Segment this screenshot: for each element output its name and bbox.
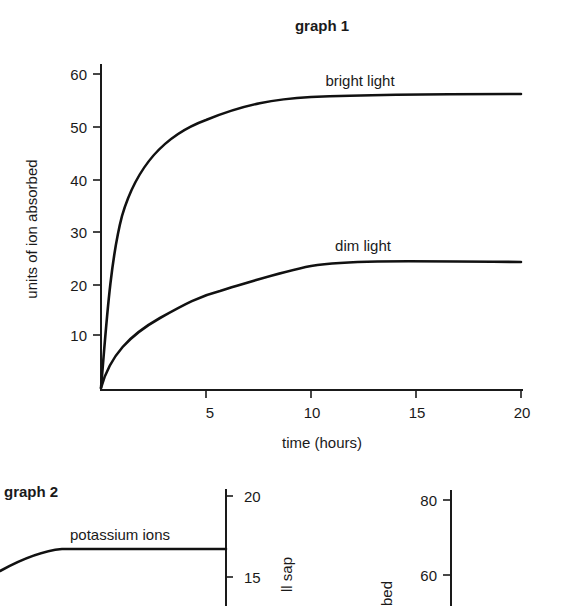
graph-2-title: graph 2 xyxy=(4,483,58,500)
graph-1-y-axis-label: units of ion absorbed xyxy=(23,159,40,298)
dim-light-label: dim light xyxy=(335,237,392,254)
graph-1-x-axis-label: time (hours) xyxy=(282,434,362,451)
graph-1-y-ticks: 60 50 40 30 20 10 xyxy=(70,66,101,344)
graph-2-left-axis-label: ll sap xyxy=(278,557,295,592)
figure-canvas: graph 1 60 50 40 30 20 10 5 10 xyxy=(0,0,577,606)
y-tick-30: 30 xyxy=(70,224,87,241)
potassium-ions-curve xyxy=(0,549,226,571)
y-tick-20: 20 xyxy=(70,277,87,294)
y-tick-50: 50 xyxy=(70,119,87,136)
graph-1-title: graph 1 xyxy=(295,17,349,34)
graph-2-left-tick-20: 20 xyxy=(244,488,261,505)
bright-light-label: bright light xyxy=(325,72,395,89)
graph-2: graph 2 20 15 ll sap 80 60 bed potassium… xyxy=(0,483,451,606)
graph-2-right-tick-60: 60 xyxy=(420,567,437,584)
bright-light-curve xyxy=(101,94,521,388)
dim-light-curve xyxy=(101,261,521,388)
y-tick-40: 40 xyxy=(70,172,87,189)
x-tick-15: 15 xyxy=(409,404,426,421)
x-tick-10: 10 xyxy=(304,404,321,421)
x-tick-20: 20 xyxy=(514,404,531,421)
potassium-ions-label: potassium ions xyxy=(70,526,170,543)
y-tick-10: 10 xyxy=(70,327,87,344)
x-tick-5: 5 xyxy=(206,404,214,421)
graph-2-right-tick-80: 80 xyxy=(420,492,437,509)
graph-2-right-axis-label: bed xyxy=(378,581,395,606)
graph-2-left-tick-15: 15 xyxy=(244,569,261,586)
graph-1-x-ticks: 5 10 15 20 xyxy=(206,390,531,421)
y-tick-60: 60 xyxy=(70,66,87,83)
graph-1: graph 1 60 50 40 30 20 10 5 10 xyxy=(23,17,530,451)
